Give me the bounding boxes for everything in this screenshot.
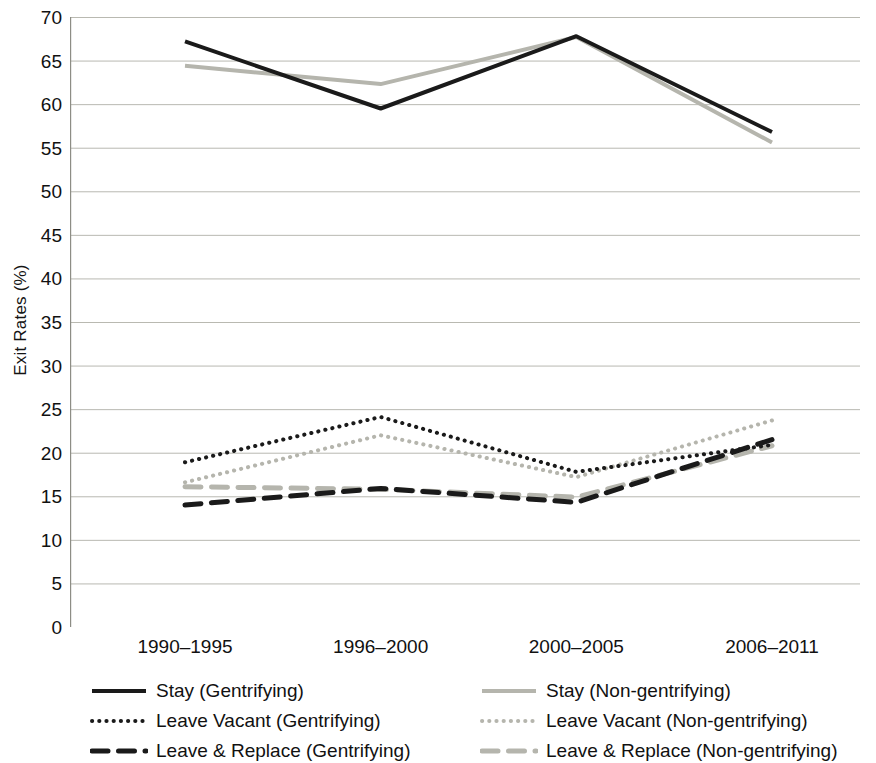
plot-area	[70, 17, 860, 627]
x-axis-tick-labels: 1990–19951996–20002000–20052006–2011	[70, 636, 860, 666]
y-axis-tick-label: 40	[18, 269, 62, 288]
y-axis-tick-label: 30	[18, 357, 62, 376]
y-axis-tick-label: 70	[18, 8, 62, 27]
y-axis-tick-label: 25	[18, 400, 62, 419]
plot-canvas	[70, 17, 860, 627]
y-axis-tick-label: 55	[18, 139, 62, 158]
legend-label: Stay (Gentrifying)	[156, 680, 304, 702]
series-line	[185, 417, 772, 472]
legend-line-swatch-dashed-icon	[480, 742, 538, 760]
legend-line-swatch-dashed-icon	[90, 742, 148, 760]
legend-label: Stay (Non-gentrifying)	[546, 680, 731, 702]
x-axis-tick-label: 2000–2005	[496, 636, 656, 658]
legend-label: Leave Vacant (Non-gentrifying)	[546, 710, 808, 732]
y-axis-tick-label: 45	[18, 226, 62, 245]
legend-entry[interactable]: Leave & Replace (Non-gentrifying)	[480, 738, 838, 763]
legend-line-swatch-solid-icon	[90, 682, 148, 700]
y-axis-tick-label: 50	[18, 182, 62, 201]
series-line	[185, 440, 772, 505]
legend-entry[interactable]: Leave & Replace (Gentrifying)	[90, 738, 411, 763]
series-line	[185, 420, 772, 482]
legend-label: Leave & Replace (Gentrifying)	[156, 740, 411, 762]
exit-rates-line-chart: Exit Rates (%) 7065605550454035302520151…	[0, 0, 876, 763]
chart-legend: Stay (Gentrifying)Stay (Non-gentrifying)…	[90, 678, 870, 760]
legend-entry[interactable]: Stay (Non-gentrifying)	[480, 678, 731, 704]
y-axis-tick-label: 20	[18, 444, 62, 463]
y-axis-tick-label: 60	[18, 95, 62, 114]
y-axis-tick-label: 5	[18, 574, 62, 593]
series-line	[185, 36, 772, 132]
y-axis-tick-label: 15	[18, 487, 62, 506]
legend-line-swatch-solid-icon	[480, 682, 538, 700]
legend-entry[interactable]: Leave Vacant (Gentrifying)	[90, 708, 381, 734]
legend-line-swatch-dotted-icon	[480, 712, 538, 730]
x-axis-tick-label: 1990–1995	[105, 636, 265, 658]
y-axis-tick-label: 65	[18, 52, 62, 71]
legend-line-swatch-dotted-icon	[90, 712, 148, 730]
legend-entry[interactable]: Stay (Gentrifying)	[90, 678, 304, 704]
x-axis-tick-label: 1996–2000	[301, 636, 461, 658]
y-axis-tick-labels: 7065605550454035302520151050	[8, 0, 62, 763]
x-axis-tick-label: 2006–2011	[692, 636, 852, 658]
legend-label: Leave & Replace (Non-gentrifying)	[546, 740, 838, 762]
y-axis-tick-label: 10	[18, 531, 62, 550]
y-axis-tick-label: 0	[18, 618, 62, 637]
legend-label: Leave Vacant (Gentrifying)	[156, 710, 381, 732]
legend-entry[interactable]: Leave Vacant (Non-gentrifying)	[480, 708, 808, 734]
y-axis-tick-label: 35	[18, 313, 62, 332]
